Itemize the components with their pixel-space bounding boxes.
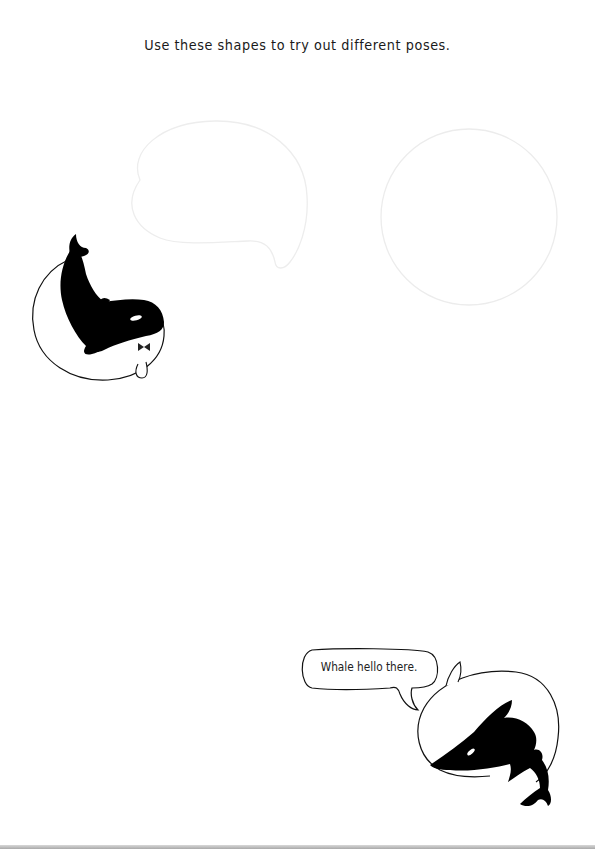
orca-circle-icon: [418, 662, 559, 806]
illustrations-canvas: [0, 0, 595, 849]
speech-bubble-text: Whale hello there.: [309, 660, 429, 674]
whale-template-outline-icon: [132, 121, 307, 268]
circle-template-outline-icon: [381, 129, 557, 305]
activity-page: Use these shapes to try out different po…: [0, 0, 595, 849]
orca-bowtie-icon: [33, 234, 165, 380]
page-bottom-edge: [0, 845, 595, 849]
speech-bubble-icon: [302, 649, 437, 710]
